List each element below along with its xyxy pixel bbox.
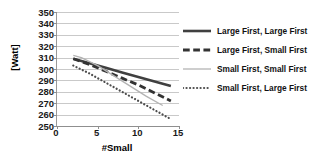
- legend-swatch-line-icon: [183, 26, 211, 36]
- y-axis-title: [Watt]: [9, 28, 20, 88]
- legend-swatch-line-icon: [183, 45, 211, 55]
- legend-item[interactable]: Large First, Small First: [183, 40, 309, 59]
- series-line-1: [73, 59, 171, 101]
- legend-swatch-line-icon: [183, 64, 211, 74]
- legend-label: Large First, Large First: [217, 26, 307, 36]
- y-tick-label: 330: [22, 30, 54, 40]
- x-tick-label: 10: [125, 128, 149, 138]
- y-axis-tick-labels: 250260270280290300310320330340350: [22, 10, 54, 126]
- y-tick-label: 260: [22, 110, 54, 120]
- gridline: [57, 126, 179, 127]
- y-tick-label: 340: [22, 19, 54, 29]
- chart-legend: Large First, Large FirstLarge First, Sma…: [183, 21, 309, 97]
- x-tick-label: 0: [44, 128, 68, 138]
- x-tick-label: 5: [85, 128, 109, 138]
- y-tick-label: 270: [22, 99, 54, 109]
- series-lines: [57, 12, 179, 126]
- y-tick-label: 310: [22, 53, 54, 63]
- legend-swatch-line-icon: [183, 83, 211, 93]
- legend-item[interactable]: Small First, Small First: [183, 59, 309, 78]
- legend-item[interactable]: Small First, Large First: [183, 78, 309, 97]
- legend-item[interactable]: Large First, Large First: [183, 21, 309, 40]
- x-axis-tick-labels: 051015: [56, 128, 186, 140]
- y-tick-label: 350: [22, 8, 54, 18]
- x-tick-label: 15: [166, 128, 190, 138]
- legend-label: Small First, Large First: [217, 83, 307, 93]
- legend-label: Large First, Small First: [217, 45, 307, 55]
- y-tick-label: 320: [22, 42, 54, 52]
- legend-label: Small First, Small First: [217, 64, 306, 74]
- plot-area: [56, 12, 178, 126]
- y-tick-label: 290: [22, 76, 54, 86]
- y-tick-label: 280: [22, 87, 54, 97]
- x-axis-title: #Small: [56, 142, 178, 153]
- y-tick-label: 300: [22, 65, 54, 75]
- chart-container: [Watt] 250260270280290300310320330340350…: [0, 0, 310, 163]
